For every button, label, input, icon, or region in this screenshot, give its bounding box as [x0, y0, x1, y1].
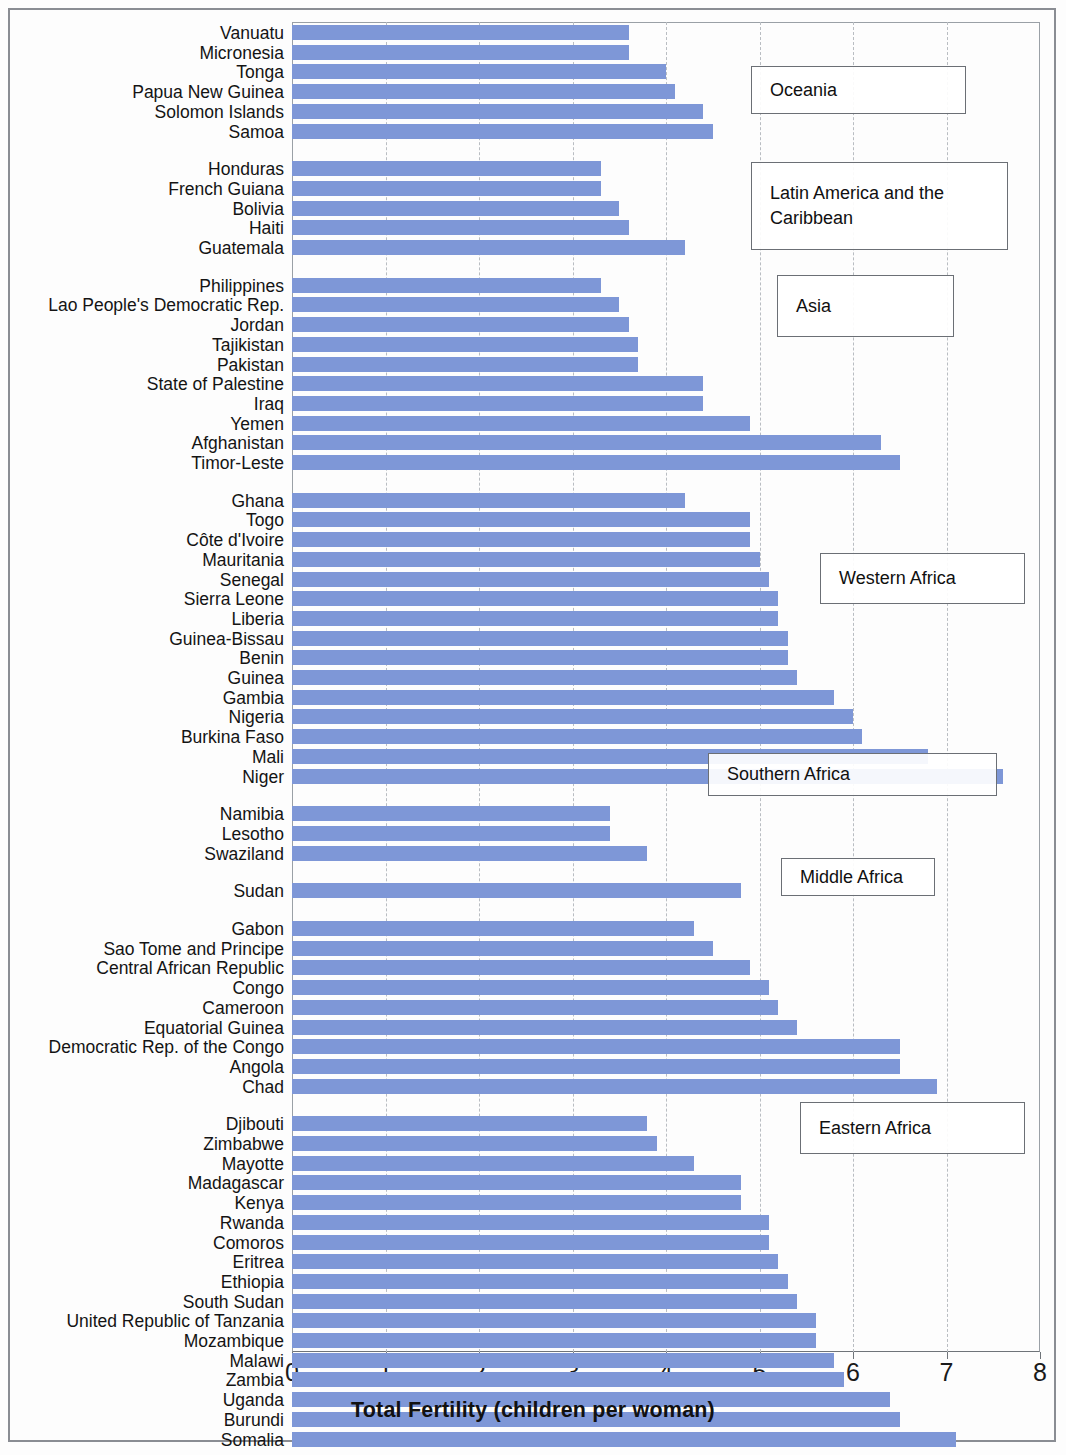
category-label: Comoros	[0, 1235, 284, 1252]
bar	[292, 1116, 647, 1131]
region-callout-label: Middle Africa	[782, 865, 903, 890]
bar	[292, 201, 619, 216]
category-label: Lao People's Democratic Rep.	[0, 297, 284, 314]
bar	[292, 650, 788, 665]
category-label: Mali	[0, 749, 284, 766]
region-callout-label: Southern Africa	[709, 762, 850, 787]
chart-row: Rwanda	[0, 1215, 1066, 1230]
category-label: Papua New Guinea	[0, 84, 284, 101]
category-label: Zimbabwe	[0, 1136, 284, 1153]
chart-row: Burkina Faso	[0, 729, 1066, 744]
chart-row: Timor-Leste	[0, 455, 1066, 470]
bar	[292, 670, 797, 685]
category-label: Haiti	[0, 220, 284, 237]
bar	[292, 25, 629, 40]
chart-row: Cameroon	[0, 1000, 1066, 1015]
category-label: Mayotte	[0, 1156, 284, 1173]
category-label: Swaziland	[0, 846, 284, 863]
region-callout-label: Oceania	[752, 78, 837, 103]
chart-row: Angola	[0, 1059, 1066, 1074]
category-label: French Guiana	[0, 181, 284, 198]
category-label: Ghana	[0, 493, 284, 510]
category-label: Afghanistan	[0, 435, 284, 452]
chart-row: Samoa	[0, 124, 1066, 139]
category-label: Mozambique	[0, 1333, 284, 1350]
category-label: Somalia	[0, 1432, 284, 1449]
bar	[292, 729, 862, 744]
category-label: Eritrea	[0, 1254, 284, 1271]
category-label: Tonga	[0, 64, 284, 81]
category-label: Tajikistan	[0, 337, 284, 354]
category-label: Central African Republic	[0, 960, 284, 977]
bar	[292, 1235, 769, 1250]
chart-row: Democratic Rep. of the Congo	[0, 1039, 1066, 1054]
category-label: Niger	[0, 769, 284, 786]
region-callout-box: Western Africa	[820, 553, 1025, 604]
bar	[292, 45, 629, 60]
category-label: Kenya	[0, 1195, 284, 1212]
category-label: Sudan	[0, 883, 284, 900]
category-label: Malawi	[0, 1353, 284, 1370]
category-label: Senegal	[0, 572, 284, 589]
bar	[292, 240, 685, 255]
bar	[292, 1432, 956, 1447]
chart-row: Sao Tome and Principe	[0, 941, 1066, 956]
bar	[292, 846, 647, 861]
category-label: Togo	[0, 512, 284, 529]
category-label: State of Palestine	[0, 376, 284, 393]
chart-row: Gambia	[0, 690, 1066, 705]
category-label: Pakistan	[0, 357, 284, 374]
chart-row: Pakistan	[0, 357, 1066, 372]
category-label: Equatorial Guinea	[0, 1020, 284, 1037]
chart-row: Afghanistan	[0, 435, 1066, 450]
region-callout-box: Oceania	[751, 66, 966, 114]
chart-row: Mozambique	[0, 1333, 1066, 1348]
chart-row: State of Palestine	[0, 376, 1066, 391]
bar	[292, 591, 778, 606]
chart-row: Malawi	[0, 1353, 1066, 1368]
category-label: Rwanda	[0, 1215, 284, 1232]
bar	[292, 220, 629, 235]
bar	[292, 84, 675, 99]
chart-row: Congo	[0, 980, 1066, 995]
chart-row: Togo	[0, 512, 1066, 527]
bar	[292, 416, 750, 431]
category-label: Zambia	[0, 1372, 284, 1389]
category-label: Gambia	[0, 690, 284, 707]
category-label: Mauritania	[0, 552, 284, 569]
region-callout-box: Asia	[777, 275, 954, 337]
region-callout-box: Middle Africa	[781, 858, 935, 896]
chart-row: Guinea	[0, 670, 1066, 685]
bar	[292, 941, 713, 956]
chart-row: Comoros	[0, 1235, 1066, 1250]
bar	[292, 1313, 816, 1328]
bar	[292, 317, 629, 332]
chart-row: Nigeria	[0, 709, 1066, 724]
category-label: Gabon	[0, 921, 284, 938]
chart-row: Somalia	[0, 1432, 1066, 1447]
category-label: Solomon Islands	[0, 104, 284, 121]
chart-row: Tajikistan	[0, 337, 1066, 352]
chart-row: Chad	[0, 1079, 1066, 1094]
chart-row: Eritrea	[0, 1254, 1066, 1269]
bar	[292, 883, 741, 898]
bar	[292, 631, 788, 646]
chart-row: Equatorial Guinea	[0, 1020, 1066, 1035]
chart-row: Kenya	[0, 1195, 1066, 1210]
region-callout-box: Eastern Africa	[800, 1102, 1025, 1154]
chart-row: Vanuatu	[0, 25, 1066, 40]
bar	[292, 278, 601, 293]
bar	[292, 1039, 900, 1054]
chart-row: Namibia	[0, 806, 1066, 821]
region-callout-label: Asia	[778, 294, 831, 319]
bar	[292, 1079, 937, 1094]
category-label: Cameroon	[0, 1000, 284, 1017]
bar	[292, 376, 703, 391]
chart-row: Côte d'Ivoire	[0, 532, 1066, 547]
chart-row: United Republic of Tanzania	[0, 1313, 1066, 1328]
bar	[292, 1059, 900, 1074]
bar	[292, 690, 834, 705]
bar	[292, 357, 638, 372]
category-label: Ethiopia	[0, 1274, 284, 1291]
chart-row: Guinea-Bissau	[0, 631, 1066, 646]
